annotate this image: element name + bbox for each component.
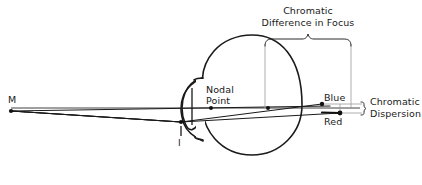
ray-red (11, 111, 340, 122)
focus-title-line2: Difference in Focus (262, 17, 355, 28)
ray-bundle (11, 104, 340, 122)
object-point-dot (9, 109, 13, 113)
image-point-label: I (178, 138, 181, 148)
blue-focus-label: Blue (324, 92, 345, 103)
chromatic-aberration-diagram: M I Nodal Point Blue Red Chromatic Diffe… (0, 0, 422, 185)
nodal-point-label-line1: Nodal (206, 84, 234, 95)
red-focus-dot (338, 111, 343, 116)
ray-incident (11, 111, 181, 122)
nodal-point-dot (209, 106, 213, 110)
red-focus-label: Red (324, 116, 342, 127)
ray-chief (11, 106, 330, 111)
object-point-label: M (8, 94, 16, 105)
red-focus-segment (322, 113, 340, 114)
dispersion-label-line2: Dispersion (370, 108, 421, 119)
focus-brace (265, 34, 351, 46)
image-point-dot (179, 120, 183, 124)
dispersion-label-line1: Chromatic (370, 96, 420, 107)
eye-diagram-canvas: M I Nodal Point Blue Red Chromatic Diffe… (0, 0, 422, 185)
nodal-point-label-line2: Point (206, 95, 230, 106)
cornea-join-mask (196, 79, 205, 139)
retina-reference-dot (266, 106, 270, 110)
focus-title-line1: Chromatic (283, 5, 333, 16)
